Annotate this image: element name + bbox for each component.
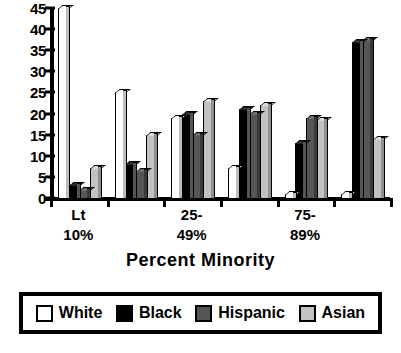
bar-side-face xyxy=(314,116,318,198)
legend-entry-asian[interactable]: Asian xyxy=(299,304,366,322)
bar-side-face xyxy=(360,40,364,198)
x-category-label: Lt10% xyxy=(33,205,123,245)
bar-white xyxy=(58,8,67,198)
bar-side-face xyxy=(133,162,137,198)
bar-side-face xyxy=(87,188,91,198)
bar-side-face xyxy=(257,112,261,198)
bar-side-face xyxy=(77,183,81,198)
y-tick-label: 15 xyxy=(0,127,46,142)
bar-side-face xyxy=(66,6,70,198)
y-tick-label: 20 xyxy=(0,106,46,121)
bar-side-face xyxy=(179,116,183,198)
y-tick-label: 5 xyxy=(0,169,46,184)
y-axis-tick-labels: 051015202530354045 xyxy=(0,0,46,205)
bar-white xyxy=(341,194,350,198)
bar-black xyxy=(352,42,361,198)
x-category-label-line: 49% xyxy=(147,225,237,245)
y-tick-label: 40 xyxy=(0,22,46,37)
bar-side-face xyxy=(154,133,158,198)
x-category-label-line: 25- xyxy=(147,205,237,225)
x-category-label-line: 89% xyxy=(260,225,350,245)
bar-side-face xyxy=(268,103,272,198)
legend-entry-black[interactable]: Black xyxy=(116,304,182,322)
bar-black xyxy=(295,143,304,198)
x-category-label-line: Lt xyxy=(33,205,123,225)
y-tick-label: 10 xyxy=(0,148,46,163)
x-category-label-line: 10% xyxy=(33,225,123,245)
legend-label: Hispanic xyxy=(218,304,285,322)
x-axis-category-labels: Lt10%25-49%75-89% xyxy=(50,205,390,251)
legend-swatch-white xyxy=(36,305,53,322)
legend-entry-white[interactable]: White xyxy=(36,304,103,322)
plot-area: 051015202530354045 xyxy=(0,0,401,205)
bar-side-face xyxy=(349,192,353,198)
bar-chart-figure: 051015202530354045 Lt10%25-49%75-89% Per… xyxy=(0,0,401,353)
footer-note xyxy=(18,345,388,353)
bar-side-face xyxy=(200,133,204,198)
bar-side-face xyxy=(144,169,148,198)
bar-group xyxy=(220,8,277,198)
bar-white xyxy=(285,194,294,198)
bar-side-face xyxy=(303,141,307,198)
bar-side-face xyxy=(247,107,251,198)
legend-swatch-asian xyxy=(299,305,316,322)
bar-groups xyxy=(50,8,390,198)
y-tick-label: 30 xyxy=(0,64,46,79)
chart-legend: WhiteBlackHispanicAsian xyxy=(19,292,382,334)
bar-white xyxy=(171,118,180,198)
bar-side-face xyxy=(370,38,374,198)
legend-swatch-hispanic xyxy=(195,305,212,322)
legend-label: Asian xyxy=(322,304,366,322)
x-category-label-line: 75- xyxy=(260,205,350,225)
bar-group xyxy=(50,8,107,198)
bar-side-face xyxy=(381,137,385,198)
y-tick-label: 45 xyxy=(0,1,46,16)
y-tick-label: 35 xyxy=(0,43,46,58)
y-tick-label: 25 xyxy=(0,85,46,100)
bar-side-face xyxy=(324,118,328,198)
bar-white xyxy=(228,168,237,198)
legend-label: White xyxy=(59,304,103,322)
legend-swatch-black xyxy=(116,305,133,322)
legend-entry-hispanic[interactable]: Hispanic xyxy=(195,304,285,322)
bar-group xyxy=(277,8,334,198)
bar-side-face xyxy=(123,90,127,198)
x-category-label: 25-49% xyxy=(147,205,237,245)
y-tick-label: 0 xyxy=(0,191,46,206)
x-axis-title: Percent Minority xyxy=(0,250,401,271)
x-category-label: 75-89% xyxy=(260,205,350,245)
bar-side-face xyxy=(236,166,240,198)
bar-side-face xyxy=(98,166,102,198)
bar-side-face xyxy=(190,112,194,198)
bar-group xyxy=(333,8,390,198)
bar-group xyxy=(163,8,220,198)
bar-side-face xyxy=(293,192,297,198)
x-tick-mark xyxy=(390,198,393,207)
bar-side-face xyxy=(211,99,215,198)
legend-label: Black xyxy=(139,304,182,322)
bar-group xyxy=(107,8,164,198)
bar-white xyxy=(115,92,124,198)
